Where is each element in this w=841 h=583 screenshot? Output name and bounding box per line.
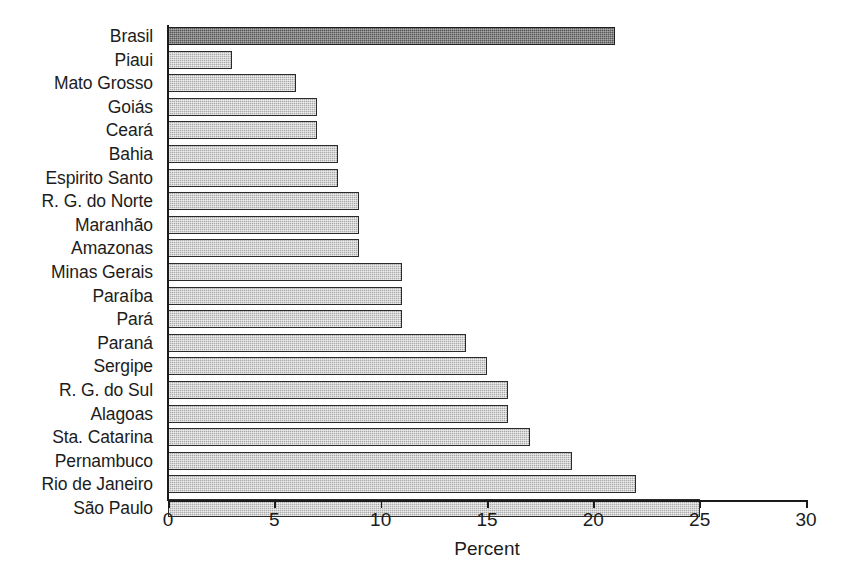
- bar-row: [168, 332, 806, 356]
- y-axis-line: [167, 25, 169, 501]
- x-axis-tick: [806, 500, 808, 508]
- category-label: Pará: [0, 308, 160, 332]
- category-label: Goiás: [0, 96, 160, 120]
- category-label: Amazonas: [0, 237, 160, 261]
- x-axis-tick-label: 20: [563, 509, 623, 531]
- bar-row: [168, 167, 806, 191]
- bar-row: [168, 285, 806, 309]
- plot-area: [168, 25, 806, 500]
- category-label: Paraíba: [0, 285, 160, 309]
- category-label: Paraná: [0, 332, 160, 356]
- bar: [168, 27, 615, 45]
- category-label: Alagoas: [0, 403, 160, 427]
- category-label: São Paulo: [0, 497, 160, 521]
- bar: [168, 381, 508, 399]
- category-label: Brasil: [0, 25, 160, 49]
- bar: [168, 405, 508, 423]
- x-axis-tick: [168, 500, 170, 508]
- bar: [168, 51, 232, 69]
- bar: [168, 310, 402, 328]
- bar-row: [168, 237, 806, 261]
- x-axis-tick-label: 10: [351, 509, 411, 531]
- bar-row: [168, 25, 806, 49]
- category-label: Pernambuco: [0, 450, 160, 474]
- bar: [168, 263, 402, 281]
- bar-row: [168, 49, 806, 73]
- x-axis-tick: [487, 500, 489, 508]
- bar-row: [168, 214, 806, 238]
- category-label: R. G. do Norte: [0, 190, 160, 214]
- bar: [168, 475, 636, 493]
- x-axis-title: Percent: [168, 538, 806, 560]
- bar: [168, 121, 317, 139]
- category-label: R. G. do Sul: [0, 379, 160, 403]
- bar-row: [168, 450, 806, 474]
- bar: [168, 239, 359, 257]
- category-label: Bahia: [0, 143, 160, 167]
- bar-row: [168, 355, 806, 379]
- x-axis-tick: [700, 500, 702, 508]
- bar: [168, 98, 317, 116]
- x-axis-tick-label: 15: [457, 509, 517, 531]
- bar: [168, 74, 296, 92]
- bar-row: [168, 96, 806, 120]
- bar-row: [168, 308, 806, 332]
- bar-row: [168, 261, 806, 285]
- x-axis-tick-label: 0: [138, 509, 198, 531]
- category-label: Rio de Janeiro: [0, 473, 160, 497]
- x-axis-tick: [381, 500, 383, 508]
- bar-row: [168, 119, 806, 143]
- bar-row: [168, 426, 806, 450]
- x-axis-tick-label: 30: [776, 509, 836, 531]
- bar: [168, 192, 359, 210]
- category-axis-labels: BrasilPiauiMato GrossoGoiásCearáBahiaEsp…: [0, 25, 160, 520]
- bar: [168, 452, 572, 470]
- category-label: Ceará: [0, 119, 160, 143]
- bar: [168, 428, 530, 446]
- category-label: Sta. Catarina: [0, 426, 160, 450]
- bar-chart: BrasilPiauiMato GrossoGoiásCearáBahiaEsp…: [0, 0, 841, 583]
- bar: [168, 145, 338, 163]
- bar-row: [168, 403, 806, 427]
- x-axis-tick-label: 5: [244, 509, 304, 531]
- category-label: Espirito Santo: [0, 167, 160, 191]
- bar-row: [168, 72, 806, 96]
- bar: [168, 216, 359, 234]
- category-label: Sergipe: [0, 355, 160, 379]
- bar: [168, 334, 466, 352]
- bar-row: [168, 190, 806, 214]
- x-axis-tick: [593, 500, 595, 508]
- bar: [168, 357, 487, 375]
- category-label: Maranhão: [0, 214, 160, 238]
- category-label: Mato Grosso: [0, 72, 160, 96]
- x-axis-tick-label: 25: [670, 509, 730, 531]
- x-axis-tick: [274, 500, 276, 508]
- bar-row: [168, 473, 806, 497]
- category-label: Piaui: [0, 49, 160, 73]
- bar: [168, 287, 402, 305]
- category-label: Minas Gerais: [0, 261, 160, 285]
- bar-row: [168, 143, 806, 167]
- bar-row: [168, 379, 806, 403]
- bar: [168, 169, 338, 187]
